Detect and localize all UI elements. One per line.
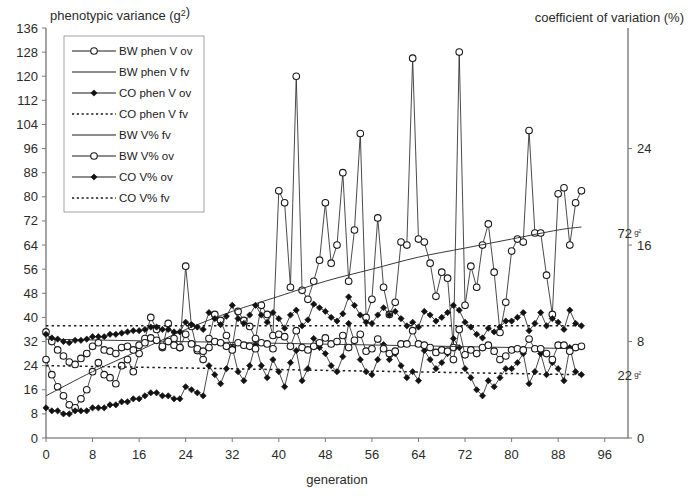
data-point-open-circle [444, 275, 451, 282]
data-point-open-circle [340, 169, 347, 176]
data-point-open-circle [223, 332, 230, 339]
data-point-open-circle [310, 278, 317, 285]
data-point-open-circle [561, 184, 568, 191]
data-point-open-circle [142, 339, 149, 346]
data-point-open-circle [380, 284, 387, 291]
data-point-open-circle [357, 331, 364, 338]
data-point-open-circle [526, 336, 533, 343]
data-point-open-circle [113, 380, 120, 387]
data-point-open-circle [293, 327, 300, 334]
data-point-open-circle [153, 337, 160, 344]
right-axis-title: coefficient of variation (%) [535, 10, 684, 25]
legend-box [64, 36, 204, 212]
data-point-open-circle [78, 355, 85, 362]
data-point-open-circle [444, 348, 451, 355]
data-point-open-circle [485, 221, 492, 228]
y2-axis-tick-label: 0 [637, 431, 644, 446]
data-point-open-circle [508, 248, 515, 255]
x-axis-tick-label: 8 [89, 447, 96, 462]
data-point-open-circle [345, 344, 352, 351]
data-point-open-circle [421, 239, 428, 246]
y-axis-tick-label: 0 [31, 431, 38, 446]
x-axis-tick-label: 32 [225, 447, 239, 462]
data-point-open-circle [91, 48, 98, 55]
x-axis-tick-label: 64 [411, 447, 425, 462]
y-axis-tick-label: 24 [24, 358, 38, 373]
x-axis-tick-label: 16 [132, 447, 146, 462]
data-point-open-circle [555, 191, 562, 198]
data-point-open-circle [334, 242, 341, 249]
data-point-open-circle [316, 339, 323, 346]
y2-axis-tick-label: 8 [637, 334, 644, 349]
y-axis-tick-label: 80 [24, 189, 38, 204]
x-axis-tick-label: 0 [42, 447, 49, 462]
data-point-open-circle [409, 327, 416, 334]
y-axis-tick-label: 8 [31, 406, 38, 421]
y-axis-tick-label: 40 [24, 310, 38, 325]
data-point-open-circle [200, 356, 207, 363]
data-point-open-circle [456, 326, 463, 333]
data-point-open-circle [473, 350, 480, 357]
data-point-open-circle [54, 347, 61, 354]
data-point-open-circle [357, 130, 364, 137]
data-point-open-circle [264, 341, 271, 348]
data-point-open-circle [91, 153, 98, 160]
data-point-open-circle [502, 299, 509, 306]
chart-legend: BW phen V ovBW phen V fvCO phen V ovCO p… [64, 36, 204, 212]
x-axis-title: generation [306, 472, 367, 487]
legend-label: BW phen V fv [119, 66, 190, 78]
data-point-open-circle [345, 278, 352, 285]
data-point-open-circle [549, 356, 556, 363]
data-point-open-circle [83, 386, 90, 393]
data-point-open-circle [182, 263, 189, 270]
data-point-open-circle [520, 347, 527, 354]
data-point-open-circle [561, 342, 568, 349]
y-axis-tick-label: 48 [24, 286, 38, 301]
data-point-open-circle [78, 396, 85, 403]
data-point-open-circle [537, 345, 544, 352]
data-point-open-circle [206, 344, 213, 351]
data-point-open-circle [351, 227, 358, 234]
chart-container: 0816243240485664728088961041121201281360… [0, 0, 689, 502]
data-point-open-circle [177, 344, 184, 351]
data-point-open-circle [281, 333, 288, 340]
data-point-open-circle [520, 239, 527, 246]
x-axis-tick-label: 80 [504, 447, 518, 462]
x-axis-tick-label: 96 [597, 447, 611, 462]
data-point-open-circle [374, 215, 381, 222]
data-point-open-circle [351, 337, 358, 344]
data-point-open-circle [305, 296, 312, 303]
data-point-open-circle [404, 341, 411, 348]
data-point-open-circle [578, 343, 585, 350]
y-axis-tick-label: 128 [16, 45, 38, 60]
y-axis-tick-label: 56 [24, 262, 38, 277]
x-axis-tick-label: 48 [318, 447, 332, 462]
y-axis-tick-label: 120 [16, 69, 38, 84]
y-axis-tick-label: 136 [16, 21, 38, 36]
data-point-open-circle [392, 299, 399, 306]
data-point-open-circle [264, 311, 271, 318]
data-point-open-circle [322, 335, 329, 342]
data-point-open-circle [491, 269, 498, 276]
x-axis-tick-label: 88 [551, 447, 565, 462]
y-axis-tick-label: 64 [24, 238, 38, 253]
data-point-open-circle [572, 200, 579, 207]
data-point-open-circle [392, 348, 399, 355]
data-point-open-circle [567, 242, 574, 249]
data-point-open-circle [130, 368, 137, 375]
data-point-open-circle [334, 338, 341, 345]
data-point-open-circle [427, 260, 434, 267]
data-point-open-circle [380, 345, 387, 352]
legend-label: CO phen V fv [119, 108, 188, 120]
y2-axis-tick-label: 16 [637, 238, 651, 253]
data-point-open-circle [83, 350, 90, 357]
y-axis-tick-label: 112 [17, 93, 38, 108]
data-point-open-circle [43, 356, 50, 363]
x-axis-tick-label: 56 [365, 447, 379, 462]
data-point-open-circle [60, 353, 67, 360]
data-point-open-circle [252, 345, 259, 352]
data-point-open-circle [473, 284, 480, 291]
data-point-open-circle [60, 392, 67, 399]
data-point-open-circle [502, 353, 509, 360]
data-point-open-circle [49, 371, 56, 378]
